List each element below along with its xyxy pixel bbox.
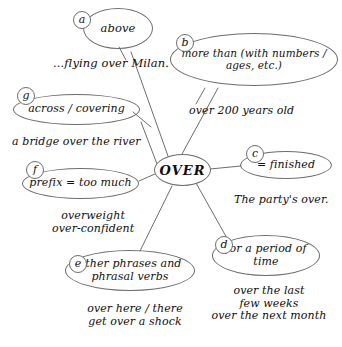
badge-d: d <box>215 236 233 254</box>
badge-e-letter: e <box>75 257 82 270</box>
connector-b <box>182 88 218 154</box>
node-b-more-than[interactable]: more than (with numbers / ages, etc.) <box>170 33 338 86</box>
badge-e: e <box>69 255 87 273</box>
example-f: overweight over-confident <box>52 210 134 235</box>
badge-a: a <box>73 11 91 29</box>
connector-e <box>140 186 172 251</box>
example-g: a bridge over the river <box>12 136 141 149</box>
node-f-label: prefix = too much <box>25 177 135 189</box>
badge-c: c <box>246 145 264 163</box>
connector-f <box>139 174 155 181</box>
connector-b-stub <box>196 88 205 104</box>
example-d: over the last few weeks over the next mo… <box>200 285 338 323</box>
node-c-label: = finished <box>253 159 319 171</box>
badge-f: f <box>26 161 44 179</box>
node-a-above[interactable]: above <box>83 8 153 49</box>
badge-a-letter: a <box>79 13 86 26</box>
node-b-label: more than (with numbers / ages, etc.) <box>171 48 337 72</box>
example-e: over here / there get over a shock <box>73 303 197 328</box>
badge-b-letter: b <box>181 36 188 49</box>
mind-map-canvas: OVER above a more than (with numbers / a… <box>0 0 342 347</box>
center-node-label: OVER <box>160 163 206 178</box>
node-e-other-phrases[interactable]: other phrases and phrasal verbs <box>65 250 195 291</box>
badge-b: b <box>176 34 194 52</box>
badge-g: g <box>17 87 35 105</box>
example-a: ...flying over Milan. <box>53 57 169 70</box>
badge-f-letter: f <box>33 163 37 176</box>
center-node-over[interactable]: OVER <box>154 154 211 186</box>
badge-g-letter: g <box>22 89 29 102</box>
badge-c-letter: c <box>252 147 258 160</box>
badge-d-letter: d <box>220 238 227 251</box>
connector-c <box>210 166 241 169</box>
connector-d <box>196 183 228 240</box>
connector-g <box>141 122 157 164</box>
example-b: over 200 years old <box>189 105 294 118</box>
example-c: The party's over. <box>234 194 329 207</box>
node-g-label: across / covering <box>24 103 129 115</box>
node-a-label: above <box>97 22 140 35</box>
